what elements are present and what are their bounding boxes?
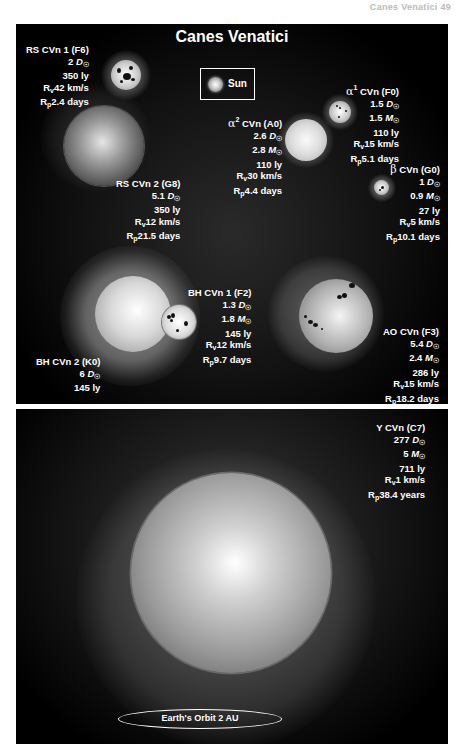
mass-unit: M (426, 190, 434, 201)
diameter-unit: D (427, 176, 434, 187)
distance-value: 110 ly (228, 159, 282, 171)
starspot (304, 315, 307, 318)
distance-value: 110 ly (346, 127, 399, 139)
superscript: 1 (353, 84, 357, 91)
star-name-text: CVn (F0) (360, 86, 399, 97)
starspot (379, 189, 381, 191)
sun-symbol: ☉ (174, 195, 180, 202)
rs-cvn-2-star (64, 106, 144, 186)
sun-symbol: ☉ (245, 304, 251, 311)
alpha2-cvn-star (285, 119, 327, 161)
diameter-value: 1.3 (223, 299, 236, 310)
rv-value: 12 km/s (146, 216, 181, 227)
mass-unit: M (385, 112, 393, 123)
diameter-value: 5.1 (152, 190, 165, 201)
sun-symbol: ☉ (276, 149, 282, 156)
diameter-value: 1.5 (370, 98, 383, 109)
diameter-value: 5.4 (410, 338, 423, 349)
rp-value: 9.7 days (214, 354, 252, 365)
star-name-text: CVn (A0) (242, 118, 282, 129)
rv-unit: R (206, 339, 213, 350)
diagram-panel-top: Canes Venatici Sun RS CVn 1 (F6) 2 D☉ 35… (16, 24, 448, 404)
rp-unit: R (368, 489, 375, 500)
starspot (336, 105, 338, 107)
rp-value: 10.1 days (397, 231, 440, 242)
sun-symbol: ☉ (83, 61, 89, 68)
starspot (349, 283, 355, 288)
starspot (171, 313, 175, 318)
mass-unit: M (268, 144, 276, 155)
star-name-text: CVn (G0) (399, 164, 440, 175)
y-cvn-star (131, 473, 331, 673)
star-name: RS CVn 1 (F6) (26, 44, 89, 56)
sun-symbol: ☉ (433, 343, 439, 350)
rv-unit: R (43, 82, 50, 93)
rv-value: 42 km/s (54, 82, 89, 93)
mass-value: 5 (403, 448, 408, 459)
sun-symbol: ☉ (94, 373, 100, 380)
rp-value: 5.1 days (362, 153, 400, 164)
mass-value: 1.5 (369, 112, 382, 123)
rp-unit: R (386, 231, 393, 242)
rv-value: 1 km/s (396, 474, 426, 485)
diameter-value: 2 (68, 56, 73, 67)
rv-value: 30 km/s (247, 170, 282, 181)
rp-value: 4.4 days (245, 185, 283, 196)
mass-unit: M (425, 352, 433, 363)
distance-value: 350 ly (116, 204, 180, 216)
starspot (120, 80, 123, 83)
sun-symbol: ☉ (419, 439, 425, 446)
star-name: β CVn (G0) (386, 164, 440, 176)
earth-orbit-ellipse: Earth's Orbit 2 AU (118, 709, 282, 729)
bh-cvn-2-star (95, 276, 171, 352)
rs-cvn-1-star (111, 60, 141, 90)
distance-value: 350 ly (26, 70, 89, 82)
sun-symbol: ☉ (276, 135, 282, 142)
sun-symbol: ☉ (393, 117, 399, 124)
distance-value: 145 ly (36, 382, 100, 394)
diameter-value: 2.6 (253, 130, 266, 141)
sun-symbol: ☉ (245, 318, 251, 325)
starspot (117, 68, 121, 73)
alpha1-cvn-label: α1 CVn (F0) 1.5 D☉ 1.5 M☉ 110 ly Rv15 km… (346, 82, 399, 167)
starspot (176, 329, 179, 332)
distance-value: 286 ly (383, 367, 439, 379)
sun-symbol: ☉ (433, 357, 439, 364)
y-cvn-label: Y CVn (C7) 277 D☉ 5 M☉ 711 ly Rv1 km/s R… (368, 422, 425, 503)
star-name: Y CVn (C7) (368, 422, 425, 434)
diameter-unit: D (426, 338, 433, 349)
rv-unit: R (385, 474, 392, 485)
alpha2-cvn-label: α2 CVn (A0) 2.6 D☉ 2.8 M☉ 110 ly Rv30 km… (228, 114, 282, 199)
mass-value: 0.9 (410, 190, 423, 201)
sun-label: Sun (228, 78, 247, 89)
mass-value: 2.4 (409, 352, 422, 363)
rv-value: 15 km/s (364, 138, 399, 149)
star-name: RS CVn 2 (G8) (116, 178, 180, 190)
rp-value: 21.5 days (138, 230, 181, 241)
rv-value: 15 km/s (404, 378, 439, 389)
rv-unit: R (135, 216, 142, 227)
beta-cvn-label: β CVn (G0) 1 D☉ 0.9 M☉ 27 ly Rv5 km/s Rp… (386, 164, 440, 245)
diameter-value: 277 (394, 434, 410, 445)
rp-value: 38.4 years (379, 489, 425, 500)
mass-unit: M (411, 448, 419, 459)
distance-value: 711 ly (368, 463, 425, 475)
mass-value: 1.8 (222, 313, 235, 324)
starspot (339, 107, 341, 109)
rp-value: 2.4 days (51, 96, 89, 107)
page-header: Canes Venatici 49 (370, 2, 451, 12)
rp-value: 18.2 days (396, 393, 439, 404)
star-name: BH CVn 2 (K0) (36, 356, 100, 368)
diameter-value: 1 (419, 176, 424, 187)
starspot (321, 328, 323, 330)
sun-legend: Sun (200, 68, 255, 100)
distance-value: 145 ly (188, 328, 251, 340)
sun-symbol: ☉ (393, 103, 399, 110)
bh-cvn-2-label: BH CVn 2 (K0) 6 D☉ 145 ly (36, 356, 100, 394)
rs-cvn-1-label: RS CVn 1 (F6) 2 D☉ 350 ly Rv42 km/s Rp2.… (26, 44, 89, 111)
diameter-value: 6 (80, 368, 85, 379)
sun-symbol: ☉ (419, 453, 425, 460)
rp-unit: R (203, 354, 210, 365)
greek-letter: β (390, 163, 396, 176)
star-name: AO CVn (F3) (383, 326, 439, 338)
